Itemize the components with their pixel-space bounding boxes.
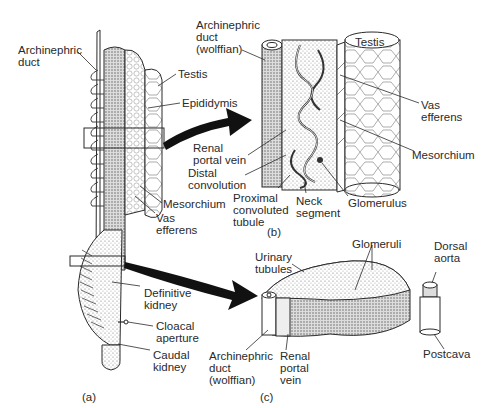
label-mesorchium-b: Mesorchium (412, 149, 475, 161)
label-neck-segment: Neck segment (296, 195, 340, 219)
label-cloacal-aperture: Cloacal aperture (156, 320, 199, 344)
label-vas-efferens-a: Vas efferens (156, 212, 197, 236)
label-glomeruli: Glomeruli (352, 238, 401, 250)
label-distal-convolution: Distal convolution (188, 167, 246, 191)
label-epididymis-a: Epididymis (182, 97, 238, 109)
label-archinephric-duct-c: Archinephric duct (wolffian) (209, 350, 273, 386)
label-archinephric-duct-a: Archinephric duct (18, 44, 82, 68)
label-testis-b: Testis (355, 36, 384, 48)
label-dorsal-aorta: Dorsal aorta (434, 240, 467, 264)
label-proximal-convoluted-tubule: Proximal convoluted tubule (233, 192, 289, 228)
panel-b-drawing (262, 32, 400, 197)
panel-caption-a: (a) (82, 391, 96, 403)
label-testis-a: Testis (178, 68, 207, 80)
label-definitive-kidney: Definitive kidney (144, 287, 191, 311)
label-archinephric-duct-b: Archinephric duct (wolffian) (196, 19, 260, 55)
label-glomerulus: Glomerulus (348, 197, 407, 209)
label-vas-efferens-b: Vas efferens (421, 99, 462, 123)
label-mesorchium-a: Mesorchium (163, 198, 226, 210)
panel-caption-b: (b) (267, 226, 281, 238)
label-urinary-tubules: Urinary tubules (255, 251, 292, 275)
label-renal-portal-vein-c: Renal portal vein (280, 350, 310, 386)
label-caudal-kidney: Caudal kidney (153, 349, 189, 373)
label-renal-portal-vein-b: Renal portal vein (193, 142, 246, 166)
panel-caption-c: (c) (260, 391, 273, 403)
kidney-testis-diagram: Archinephric duct Testis Epididymis Meso… (0, 0, 485, 408)
label-postcava: Postcava (423, 348, 470, 360)
panel-a-drawing (70, 30, 164, 370)
